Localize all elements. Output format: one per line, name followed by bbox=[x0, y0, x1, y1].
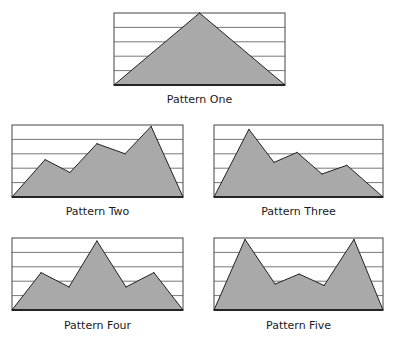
data-point bbox=[296, 152, 297, 153]
pattern-title: Pattern Four bbox=[64, 319, 132, 332]
data-point bbox=[96, 143, 97, 144]
data-point bbox=[44, 159, 45, 160]
data-point bbox=[273, 162, 274, 163]
data-point bbox=[69, 172, 70, 173]
data-point bbox=[244, 239, 245, 240]
data-point bbox=[125, 286, 126, 287]
pattern-title: Pattern Three bbox=[261, 205, 336, 218]
pattern-panel-3: Pattern Three bbox=[213, 125, 383, 218]
data-point bbox=[298, 273, 299, 274]
data-point bbox=[248, 129, 249, 130]
data-point bbox=[321, 173, 322, 174]
pattern-title: Pattern One bbox=[167, 93, 233, 106]
data-point bbox=[40, 272, 41, 273]
data-point bbox=[68, 286, 69, 287]
data-point bbox=[125, 153, 126, 154]
data-point bbox=[324, 285, 325, 286]
pattern-panel-1: Pattern One bbox=[113, 12, 285, 106]
patterns-figure: Pattern One Pattern Two Pattern Three Pa… bbox=[0, 0, 399, 341]
pattern-title: Pattern Two bbox=[66, 205, 130, 218]
data-point bbox=[353, 239, 354, 240]
pattern-title: Pattern Five bbox=[266, 319, 331, 332]
pattern-panel-4: Pattern Four bbox=[11, 238, 183, 332]
pattern-panel-2: Pattern Two bbox=[11, 125, 183, 218]
data-point bbox=[96, 240, 97, 241]
data-point bbox=[346, 165, 347, 166]
pattern-panel-5: Pattern Five bbox=[213, 238, 383, 332]
data-point bbox=[199, 12, 200, 13]
data-point bbox=[275, 283, 276, 284]
data-point bbox=[153, 272, 154, 273]
data-point bbox=[150, 126, 151, 127]
